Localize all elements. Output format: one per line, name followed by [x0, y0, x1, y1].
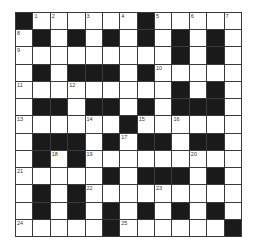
crossword-cell[interactable]	[138, 82, 154, 98]
crossword-cell[interactable]	[155, 82, 171, 98]
crossword-cell[interactable]: 4	[120, 13, 136, 29]
crossword-cell[interactable]	[86, 134, 102, 150]
crossword-cell[interactable]	[138, 151, 154, 167]
crossword-cell[interactable]	[16, 134, 32, 150]
crossword-cell[interactable]	[51, 47, 67, 63]
crossword-cell[interactable]	[190, 65, 206, 81]
crossword-cell[interactable]	[120, 65, 136, 81]
crossword-cell[interactable]: 2	[51, 13, 67, 29]
crossword-cell[interactable]	[51, 185, 67, 201]
crossword-cell[interactable]	[190, 168, 206, 184]
crossword-cell[interactable]: 7	[225, 13, 241, 29]
crossword-cell[interactable]	[103, 82, 119, 98]
crossword-cell[interactable]	[225, 30, 241, 46]
crossword-cell[interactable]: 20	[190, 151, 206, 167]
crossword-cell[interactable]	[207, 116, 223, 132]
crossword-cell[interactable]	[172, 185, 188, 201]
crossword-cell[interactable]	[155, 99, 171, 115]
crossword-cell[interactable]	[68, 168, 84, 184]
crossword-cell[interactable]: 22	[86, 185, 102, 201]
crossword-cell[interactable]	[172, 65, 188, 81]
crossword-cell[interactable]	[138, 220, 154, 236]
crossword-cell[interactable]: 11	[16, 82, 32, 98]
crossword-cell[interactable]	[51, 168, 67, 184]
crossword-cell[interactable]	[103, 185, 119, 201]
crossword-cell[interactable]	[51, 116, 67, 132]
crossword-cell[interactable]	[225, 99, 241, 115]
crossword-cell[interactable]	[51, 220, 67, 236]
crossword-cell[interactable]	[155, 116, 171, 132]
crossword-cell[interactable]	[68, 116, 84, 132]
crossword-cell[interactable]	[16, 65, 32, 81]
crossword-cell[interactable]: 21	[16, 168, 32, 184]
crossword-cell[interactable]	[190, 203, 206, 219]
crossword-cell[interactable]	[225, 203, 241, 219]
crossword-cell[interactable]	[86, 220, 102, 236]
crossword-cell[interactable]	[138, 185, 154, 201]
crossword-cell[interactable]	[225, 185, 241, 201]
crossword-cell[interactable]	[225, 151, 241, 167]
crossword-cell[interactable]	[225, 47, 241, 63]
crossword-cell[interactable]	[33, 220, 49, 236]
crossword-cell[interactable]	[68, 47, 84, 63]
crossword-cell[interactable]	[103, 116, 119, 132]
crossword-cell[interactable]	[86, 30, 102, 46]
crossword-cell[interactable]	[120, 151, 136, 167]
crossword-cell[interactable]	[103, 13, 119, 29]
crossword-cell[interactable]	[68, 13, 84, 29]
crossword-cell[interactable]: 15	[138, 116, 154, 132]
crossword-cell[interactable]	[16, 99, 32, 115]
crossword-cell[interactable]	[225, 134, 241, 150]
crossword-cell[interactable]	[172, 134, 188, 150]
crossword-cell[interactable]	[225, 168, 241, 184]
crossword-cell[interactable]	[86, 82, 102, 98]
crossword-cell[interactable]: 18	[51, 151, 67, 167]
crossword-cell[interactable]	[207, 185, 223, 201]
crossword-cell[interactable]	[33, 168, 49, 184]
crossword-cell[interactable]	[51, 65, 67, 81]
crossword-cell[interactable]	[120, 30, 136, 46]
crossword-cell[interactable]	[155, 30, 171, 46]
crossword-cell[interactable]	[16, 185, 32, 201]
crossword-cell[interactable]	[120, 203, 136, 219]
crossword-cell[interactable]	[86, 203, 102, 219]
crossword-cell[interactable]	[155, 47, 171, 63]
crossword-cell[interactable]	[33, 116, 49, 132]
crossword-cell[interactable]	[68, 99, 84, 115]
crossword-cell[interactable]	[172, 151, 188, 167]
crossword-cell[interactable]	[190, 47, 206, 63]
crossword-cell[interactable]: 25	[120, 220, 136, 236]
crossword-cell[interactable]: 12	[68, 82, 84, 98]
crossword-cell[interactable]	[155, 151, 171, 167]
crossword-cell[interactable]	[155, 203, 171, 219]
crossword-cell[interactable]	[103, 47, 119, 63]
crossword-cell[interactable]	[16, 203, 32, 219]
crossword-cell[interactable]: 6	[190, 13, 206, 29]
crossword-cell[interactable]	[51, 82, 67, 98]
crossword-cell[interactable]	[207, 65, 223, 81]
crossword-cell[interactable]	[120, 185, 136, 201]
crossword-cell[interactable]: 5	[155, 13, 171, 29]
crossword-cell[interactable]	[33, 47, 49, 63]
crossword-cell[interactable]	[207, 151, 223, 167]
crossword-cell[interactable]	[190, 82, 206, 98]
crossword-cell[interactable]	[68, 220, 84, 236]
crossword-cell[interactable]	[155, 220, 171, 236]
crossword-cell[interactable]	[225, 82, 241, 98]
crossword-cell[interactable]: 10	[155, 65, 171, 81]
crossword-cell[interactable]: 14	[86, 116, 102, 132]
crossword-cell[interactable]	[120, 99, 136, 115]
crossword-cell[interactable]	[207, 13, 223, 29]
crossword-cell[interactable]	[190, 116, 206, 132]
crossword-cell[interactable]	[225, 116, 241, 132]
crossword-cell[interactable]: 24	[16, 220, 32, 236]
crossword-cell[interactable]	[51, 30, 67, 46]
crossword-cell[interactable]	[120, 82, 136, 98]
crossword-cell[interactable]: 16	[172, 116, 188, 132]
crossword-cell[interactable]	[16, 151, 32, 167]
crossword-cell[interactable]	[51, 203, 67, 219]
crossword-cell[interactable]	[190, 220, 206, 236]
crossword-cell[interactable]	[86, 47, 102, 63]
crossword-cell[interactable]: 8	[16, 30, 32, 46]
crossword-cell[interactable]: 1	[33, 13, 49, 29]
